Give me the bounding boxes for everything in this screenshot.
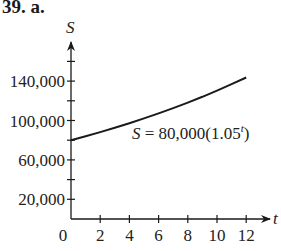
- y-tick-label: 100,000: [10, 112, 65, 131]
- x-axis-label: t: [273, 209, 279, 228]
- x-tick-label: 0: [59, 226, 68, 245]
- x-tick-label: 6: [154, 226, 163, 245]
- x-tick-label: 2: [96, 226, 105, 245]
- y-ticks: 20,00060,000100,000140,000: [10, 61, 75, 209]
- y-tick-label: 140,000: [10, 72, 65, 91]
- x-tick-label: 8: [184, 226, 193, 245]
- y-tick-label: 60,000: [18, 151, 65, 170]
- x-tick-label: 4: [125, 226, 134, 245]
- x-tick-label: 12: [238, 226, 255, 245]
- equation-label: S = 80,000(1.05t): [132, 122, 249, 143]
- chart: 20,00060,000100,000140,000 024681012 S t…: [0, 0, 281, 251]
- x-tick-label: 10: [209, 226, 226, 245]
- equation-mid: = 80,000(1.05: [141, 124, 241, 143]
- y-axis-label: S: [66, 18, 75, 37]
- y-tick-label: 20,000: [18, 190, 65, 209]
